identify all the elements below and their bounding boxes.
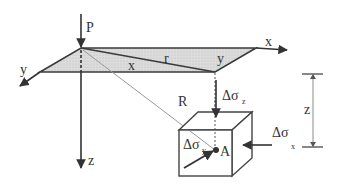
stress-y-label: Δσ	[183, 137, 200, 152]
stress-z-subscript: z	[242, 97, 246, 106]
point-A-marker	[213, 147, 219, 153]
boussinesq-point-load-diagram: x y P z R x r y Δσ z Δσ x Δσ y A	[0, 0, 341, 187]
stress-z-label: Δσ	[222, 88, 239, 103]
depth-z-label: z	[304, 102, 310, 117]
stress-x-subscript: x	[291, 142, 295, 151]
stress-x-label: Δσ	[272, 125, 289, 140]
stress-y-symbol: Δσ	[183, 137, 200, 152]
distance-R-label: R	[178, 94, 188, 109]
x-axis-label: x	[265, 34, 272, 49]
plane-r-label: r	[164, 51, 169, 66]
plane-x-label: x	[128, 58, 135, 73]
y-axis-label: y	[20, 62, 27, 77]
point-A-label: A	[220, 144, 231, 159]
stress-z-symbol: Δσ	[222, 88, 239, 103]
stress-y-subscript: y	[202, 146, 206, 155]
plane-y-label: y	[217, 51, 224, 66]
z-axis-label: z	[88, 153, 94, 168]
load-label-P: P	[86, 20, 94, 35]
stress-x-symbol: Δσ	[272, 125, 289, 140]
